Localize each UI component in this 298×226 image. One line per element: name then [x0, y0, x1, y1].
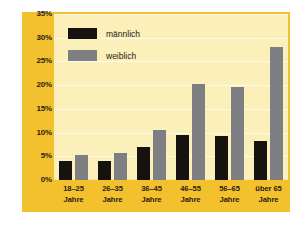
- bar-male: [176, 135, 189, 180]
- legend-label-male: männlich: [106, 29, 140, 39]
- y-axis-tick: 10%: [22, 129, 52, 137]
- bar-female: [192, 84, 205, 180]
- x-axis-tick: 56–65Jahre: [210, 184, 249, 205]
- bar-male: [215, 136, 228, 180]
- bar-male: [98, 161, 111, 180]
- bar-chart: 35% 30% 25% 20% 15% 10% 5% 0% männlich w…: [0, 0, 298, 226]
- x-axis-tick-unit: Jahre: [54, 195, 93, 206]
- y-axis-tick: 5%: [22, 152, 52, 160]
- chart-figure: 35% 30% 25% 20% 15% 10% 5% 0% männlich w…: [22, 12, 290, 212]
- gridline: [54, 109, 288, 110]
- x-axis-tick: 46–55Jahre: [171, 184, 210, 205]
- y-axis-tick: 15%: [22, 105, 52, 113]
- legend-swatch-icon-female: [68, 50, 97, 61]
- legend: männlich weiblich: [68, 28, 140, 72]
- x-axis-tick-unit: Jahre: [171, 195, 210, 206]
- x-axis-tick: über 65Jahre: [249, 184, 288, 205]
- y-axis-tick: 20%: [22, 81, 52, 89]
- x-axis-tick-range: 56–65: [219, 184, 240, 193]
- bar-female: [153, 130, 166, 180]
- x-axis-tick-range: über 65: [255, 184, 281, 193]
- gridline: [54, 156, 288, 157]
- bar-female: [114, 153, 127, 180]
- gridline: [54, 14, 288, 15]
- x-axis-tick-unit: Jahre: [249, 195, 288, 206]
- x-axis-tick-range: 26–35: [102, 184, 123, 193]
- x-axis-tick-unit: Jahre: [93, 195, 132, 206]
- x-axis-tick-range: 46–55: [180, 184, 201, 193]
- x-axis-tick-range: 36–45: [141, 184, 162, 193]
- x-axis-tick-unit: Jahre: [132, 195, 171, 206]
- y-axis-tick: 25%: [22, 57, 52, 65]
- bar-female: [231, 87, 244, 180]
- legend-label-female: weiblich: [106, 51, 136, 61]
- x-axis-tick: 18–25Jahre: [54, 184, 93, 205]
- bar-female: [270, 47, 283, 180]
- plot-area: männlich weiblich: [54, 14, 288, 180]
- legend-swatch-icon-male: [68, 28, 97, 39]
- legend-item-maennlich: männlich: [68, 28, 140, 39]
- x-axis-tick-unit: Jahre: [210, 195, 249, 206]
- x-axis-tick-range: 18–25: [63, 184, 84, 193]
- x-axis: 18–25Jahre26–35Jahre36–45Jahre46–55Jahre…: [54, 180, 288, 212]
- y-axis-tick: 30%: [22, 34, 52, 42]
- gridline: [54, 133, 288, 134]
- y-axis-tick: 0%: [22, 176, 52, 184]
- x-axis-tick: 36–45Jahre: [132, 184, 171, 205]
- bar-male: [254, 141, 267, 180]
- legend-item-weiblich: weiblich: [68, 50, 140, 61]
- x-axis-tick: 26–35Jahre: [93, 184, 132, 205]
- bar-female: [75, 155, 88, 180]
- bar-male: [137, 147, 150, 180]
- y-axis-tick: 35%: [22, 10, 52, 18]
- bar-male: [59, 161, 72, 180]
- gridline: [54, 85, 288, 86]
